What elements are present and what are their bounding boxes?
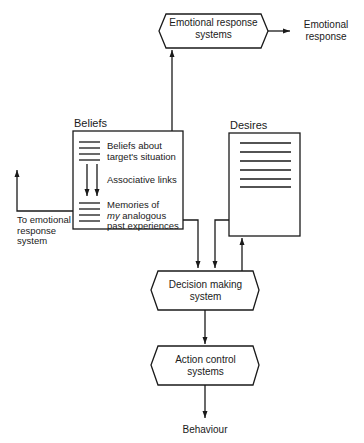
- to-emotional-line1: To emotional: [17, 215, 71, 226]
- beliefs-item-memories: Memories of my analogous past experience…: [107, 200, 179, 232]
- action-control-line2: systems: [158, 366, 253, 378]
- emotional-response-output: Emotional response: [296, 19, 356, 43]
- desires-title: Desires: [230, 119, 267, 131]
- emotional-response-output-line1: Emotional: [296, 19, 356, 31]
- beliefs-item2-line2-italic: my: [107, 210, 120, 221]
- desires-box: [229, 133, 300, 236]
- decision-making-line2: system: [158, 291, 253, 303]
- emotional-response-systems-line2: systems: [166, 29, 261, 41]
- behaviour-label: Behaviour: [165, 424, 245, 436]
- action-control-node: Action control systems: [158, 354, 253, 378]
- action-control-line1: Action control: [158, 354, 253, 366]
- emotional-response-output-line2: response: [296, 31, 356, 43]
- emotional-response-systems-line1: Emotional response: [166, 17, 261, 29]
- beliefs-title: Beliefs: [74, 117, 107, 129]
- beliefs-item1-line2: target's situation: [107, 151, 176, 162]
- beliefs-item2-line2-rest: analogous: [120, 210, 166, 221]
- decision-making-node: Decision making system: [158, 279, 253, 303]
- associative-links-label: Associative links: [107, 174, 177, 186]
- beliefs-item1-line1: Beliefs about: [107, 140, 176, 151]
- to-emotional-response-label: To emotional response system: [17, 215, 71, 247]
- emotional-response-systems-node: Emotional response systems: [166, 17, 261, 41]
- beliefs-item2-line3: past experiences: [107, 221, 179, 232]
- beliefs-item-target-situation: Beliefs about target's situation: [107, 140, 176, 162]
- decision-making-line1: Decision making: [158, 279, 253, 291]
- to-emotional-line3: system: [17, 236, 71, 247]
